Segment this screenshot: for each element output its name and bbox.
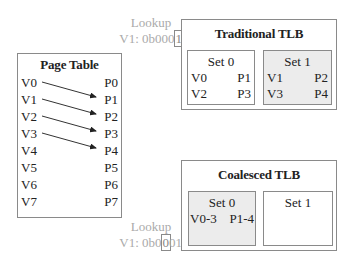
set-name: Set 1: [264, 54, 331, 70]
arrow-v1-p2: [42, 99, 96, 114]
lookup-label-bottom: Lookup V1: 0b0001: [100, 219, 182, 251]
tlb-entry: V0-3P1-4: [190, 211, 254, 227]
set-name: Set 0: [189, 195, 255, 211]
traditional-tlb: Traditional TLB Set 0 V0P1 V2P3 Set 1 V1…: [181, 19, 337, 110]
arrow-v3-p4: [42, 133, 96, 148]
tlb-entry: V1P2: [267, 70, 328, 86]
tlb-entry: V2P3: [191, 86, 251, 102]
set-name: Set 1: [264, 195, 332, 211]
lookup-title: Lookup: [100, 219, 182, 235]
coalesced-tlb-title: Coalesced TLB: [182, 167, 336, 183]
tlb-entry: V0P1: [191, 70, 251, 86]
coalesced-tlb: Coalesced TLB Set 0 V0-3P1-4 Set 1: [181, 160, 337, 251]
lookup-address: V1: 0b0001: [100, 235, 182, 251]
traditional-tlb-set-1: Set 1 V1P2 V3P4: [263, 50, 332, 105]
traditional-tlb-title: Traditional TLB: [182, 26, 336, 42]
set-name: Set 0: [188, 54, 254, 70]
coalesced-tlb-set-1: Set 1: [263, 191, 333, 246]
arrow-v2-p3: [42, 116, 96, 131]
tlb-entry: V3P4: [267, 86, 328, 102]
arrow-v0-p1: [42, 82, 96, 97]
traditional-tlb-set-0: Set 0 V0P1 V2P3: [187, 50, 255, 105]
coalesced-tlb-set-0: Set 0 V0-3P1-4: [188, 191, 256, 246]
